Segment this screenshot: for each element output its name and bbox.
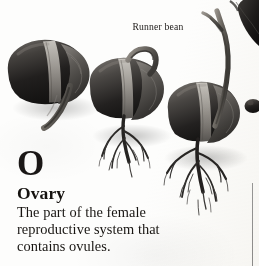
entry-term: Ovary (17, 185, 65, 203)
definition-line: reproductive system that (17, 221, 189, 238)
shadow-stage-3 (164, 145, 248, 171)
encyclopedia-page: Runner bean O Ovary The part of the fema… (0, 0, 259, 266)
section-drop-cap: O (17, 146, 44, 181)
cropped-leaf-top-right-icon (230, 0, 259, 46)
stage-3-seedling-with-shoot-and-root-network (164, 11, 240, 215)
definition-line: contains ovules. (17, 238, 189, 255)
definition-line: The part of the female (17, 204, 189, 221)
cropped-seed-right-edge-icon (245, 99, 260, 113)
illustration-caption: Runner bean (110, 22, 206, 33)
stage-2-seedling-with-primary-roots (90, 49, 164, 177)
column-rule (252, 183, 253, 266)
entry-definition: The part of the female reproductive syst… (17, 204, 189, 255)
